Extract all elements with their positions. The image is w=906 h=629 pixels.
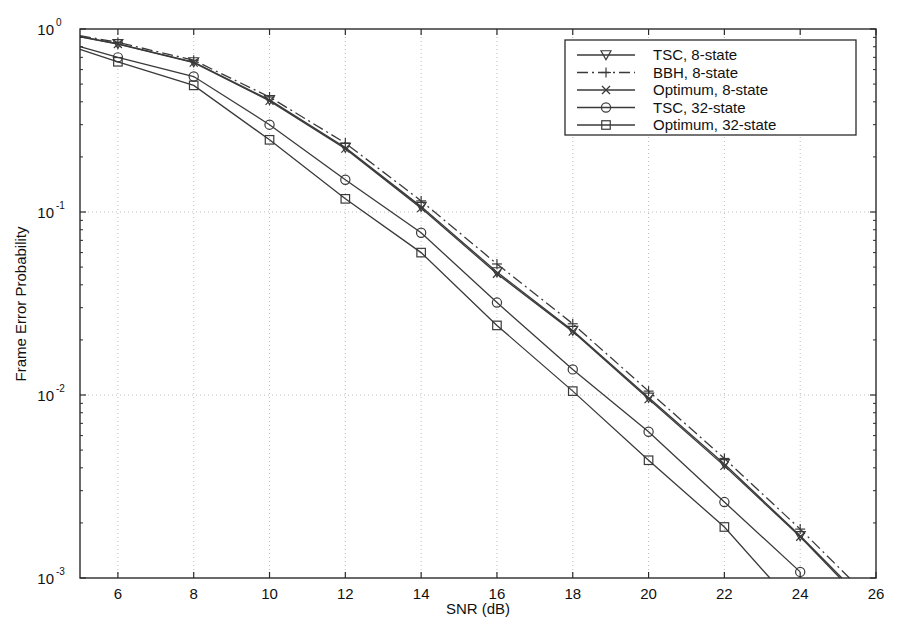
y-axis-label: Frame Error Probability: [12, 226, 29, 382]
x-tick-label: 26: [868, 585, 885, 602]
x-tick-label: 10: [261, 585, 278, 602]
x-tick-label: 22: [716, 585, 733, 602]
legend-label: TSC, 32-state: [653, 99, 746, 116]
legend-label: Optimum, 8-state: [653, 81, 768, 98]
x-tick-label: 8: [190, 585, 198, 602]
svg-text:10: 10: [37, 570, 54, 587]
svg-text:10: 10: [37, 21, 54, 38]
legend-label: TSC, 8-state: [653, 46, 737, 63]
x-axis-label: SNR (dB): [446, 600, 510, 617]
x-tick-label: 12: [337, 585, 354, 602]
x-tick-label: 18: [564, 585, 581, 602]
x-tick-label: 20: [640, 585, 657, 602]
frame-error-probability-chart: 6810121416182022242610010-110-210-3 TSC,…: [0, 0, 906, 629]
x-tick-label: 24: [792, 585, 809, 602]
x-tick-label: 6: [114, 585, 122, 602]
svg-text:-1: -1: [56, 200, 65, 211]
legend-label: BBH, 8-state: [653, 64, 738, 81]
svg-text:10: 10: [37, 204, 54, 221]
svg-text:0: 0: [56, 17, 62, 28]
x-tick-label: 14: [413, 585, 430, 602]
svg-text:-2: -2: [56, 383, 65, 394]
svg-text:10: 10: [37, 387, 54, 404]
svg-text:-3: -3: [56, 566, 65, 577]
figure-container: 6810121416182022242610010-110-210-3 TSC,…: [0, 0, 906, 629]
legend-label: Optimum, 32-state: [653, 116, 776, 133]
legend: TSC, 8-stateBBH, 8-stateOptimum, 8-state…: [565, 40, 856, 135]
